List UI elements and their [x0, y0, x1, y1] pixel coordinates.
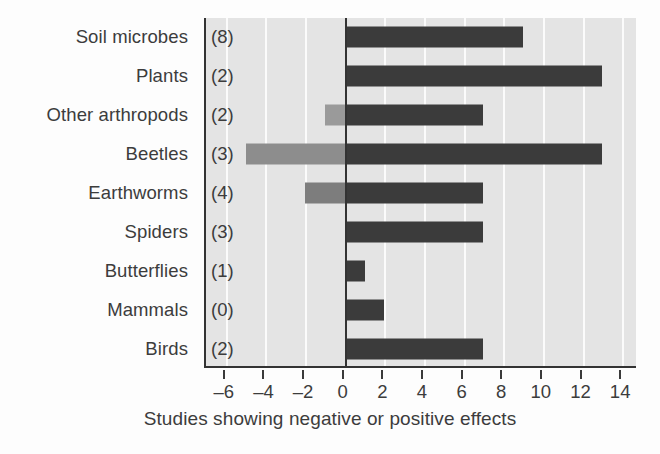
category-label: Soil microbes: [76, 26, 188, 48]
category-label: Plants: [136, 65, 188, 87]
x-tick-label: 4: [417, 381, 427, 403]
x-tick: [421, 370, 423, 379]
category-count-label: (0): [211, 299, 234, 321]
category-count-label: (2): [211, 65, 234, 87]
category-label: Mammals: [107, 299, 188, 321]
category-label: Butterflies: [105, 260, 188, 282]
x-tick: [461, 370, 463, 379]
bar-negative: [246, 144, 345, 165]
zero-axis-line: [345, 18, 347, 366]
category-count-label: (3): [211, 221, 234, 243]
x-tick: [223, 370, 225, 379]
category-count-label: (3): [211, 143, 234, 165]
category-label: Beetles: [126, 143, 188, 165]
x-tick: [381, 370, 383, 379]
bar-positive: [345, 144, 603, 165]
category-count-label: (1): [211, 260, 234, 282]
gridline: [622, 18, 624, 366]
bar-positive: [345, 27, 523, 48]
x-tick-label: 6: [456, 381, 466, 403]
x-tick: [500, 370, 502, 379]
x-tick: [262, 370, 264, 379]
x-tick: [342, 370, 344, 379]
category-label: Birds: [145, 338, 188, 360]
x-tick-label: 14: [610, 381, 631, 403]
x-tick-label: 10: [531, 381, 552, 403]
x-axis-title: Studies showing negative or positive eff…: [0, 408, 660, 430]
gridline: [265, 18, 267, 366]
bar-positive: [345, 338, 484, 359]
category-label: Earthworms: [88, 182, 188, 204]
category-count-label: (2): [211, 104, 234, 126]
plot-area: (8)(2)(2)(3)(4)(3)(1)(0)(2): [204, 18, 636, 368]
bar-positive: [345, 260, 365, 281]
bar-negative: [305, 183, 345, 204]
x-tick-label: –6: [214, 381, 235, 403]
x-tick-label: –4: [253, 381, 274, 403]
x-tick-label: 8: [496, 381, 506, 403]
bar-positive: [345, 183, 484, 204]
x-tick-label: 12: [570, 381, 591, 403]
x-tick-label: –2: [293, 381, 314, 403]
x-tick-label: 2: [377, 381, 387, 403]
x-tick-label: 0: [338, 381, 348, 403]
bar-positive: [345, 66, 603, 87]
category-label: Spiders: [125, 221, 188, 243]
category-label: Other arthropods: [47, 104, 188, 126]
bar-negative: [325, 105, 345, 126]
category-count-label: (8): [211, 26, 234, 48]
category-count-label: (4): [211, 182, 234, 204]
x-tick: [619, 370, 621, 379]
bar-positive: [345, 221, 484, 242]
x-tick: [302, 370, 304, 379]
bar-positive: [345, 299, 385, 320]
bar-chart-figure: Soil microbesPlantsOther arthropodsBeetl…: [0, 0, 660, 454]
plot-inner: (8)(2)(2)(3)(4)(3)(1)(0)(2): [206, 18, 636, 366]
category-count-label: (2): [211, 338, 234, 360]
category-label-column: Soil microbesPlantsOther arthropodsBeetl…: [0, 18, 196, 368]
x-tick: [540, 370, 542, 379]
x-tick: [580, 370, 582, 379]
bar-positive: [345, 105, 484, 126]
